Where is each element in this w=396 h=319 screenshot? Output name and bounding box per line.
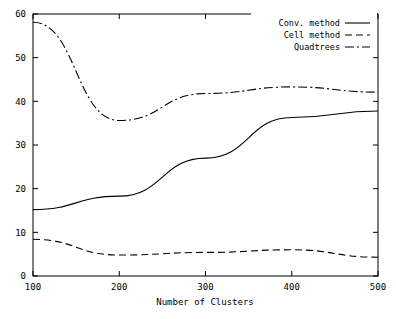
legend-label-1: Cell method: [284, 30, 340, 40]
y-tick-label: 40: [15, 97, 26, 107]
chart-legend: Conv. methodCell methodQuadtrees: [251, 12, 377, 52]
y-tick-label: 20: [15, 184, 26, 194]
y-tick-label: 30: [15, 140, 26, 150]
y-tick-label: 0: [21, 271, 26, 281]
legend-label-0: Conv. method: [279, 18, 340, 28]
y-tick-label: 10: [15, 228, 26, 238]
chart-figure: 0102030405060 100200300400500 Number of …: [0, 0, 396, 319]
x-tick-label: 200: [111, 282, 127, 292]
y-tick-label: 50: [15, 53, 26, 63]
legend-label-2: Quadtrees: [294, 42, 340, 52]
line-chart-canvas: 0102030405060 100200300400500 Number of …: [0, 0, 396, 319]
x-tick-label: 500: [370, 282, 386, 292]
x-tick-label: 400: [284, 282, 300, 292]
y-tick-label: 60: [15, 9, 26, 19]
x-axis-title: Number of Clusters: [156, 297, 254, 307]
x-tick-label: 100: [25, 282, 41, 292]
x-tick-label: 300: [197, 282, 213, 292]
